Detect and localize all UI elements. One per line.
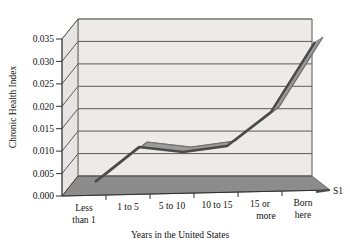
chart-svg: 0.035 0.030 0.025 0.020 0.015 0.010 0.00… bbox=[0, 0, 350, 247]
y-tick-label: 0.000 bbox=[33, 191, 55, 201]
legend-label-s1: S1 bbox=[333, 186, 343, 196]
y-tick-label: 0.010 bbox=[33, 146, 55, 156]
x-category-label-line2: than 1 bbox=[72, 215, 96, 225]
chart-back-wall bbox=[78, 19, 312, 176]
x-category-label: 1 to 5 bbox=[117, 202, 139, 212]
y-tick-label: 0.025 bbox=[33, 79, 55, 89]
x-category-label: 15 or bbox=[250, 199, 271, 209]
y-tick-label: 0.030 bbox=[33, 57, 55, 67]
chart-container: 0.035 0.030 0.025 0.020 0.015 0.010 0.00… bbox=[0, 0, 350, 247]
x-category-label: 10 to 15 bbox=[201, 200, 232, 210]
x-category-label: Born bbox=[294, 198, 313, 208]
y-tick-label: 0.005 bbox=[33, 169, 55, 179]
x-category-label: Less bbox=[75, 203, 93, 213]
y-axis-tick-labels: 0.035 0.030 0.025 0.020 0.015 0.010 0.00… bbox=[33, 34, 55, 201]
chart-left-wall bbox=[62, 19, 78, 196]
x-category-label: 5 to 10 bbox=[159, 201, 186, 211]
y-axis-title: Chronic Health Index bbox=[8, 66, 18, 149]
x-category-label-line2: here bbox=[295, 210, 311, 220]
x-axis-title: Years in the United States bbox=[131, 230, 230, 240]
x-axis-category-labels: Less than 1 1 to 5 5 to 10 10 to 15 15 o… bbox=[72, 198, 312, 225]
y-tick-label: 0.035 bbox=[33, 34, 55, 44]
y-axis-ticks bbox=[56, 39, 62, 196]
y-tick-label: 0.020 bbox=[33, 102, 55, 112]
x-category-label-line2: more bbox=[256, 211, 276, 221]
y-tick-label: 0.015 bbox=[33, 124, 55, 134]
